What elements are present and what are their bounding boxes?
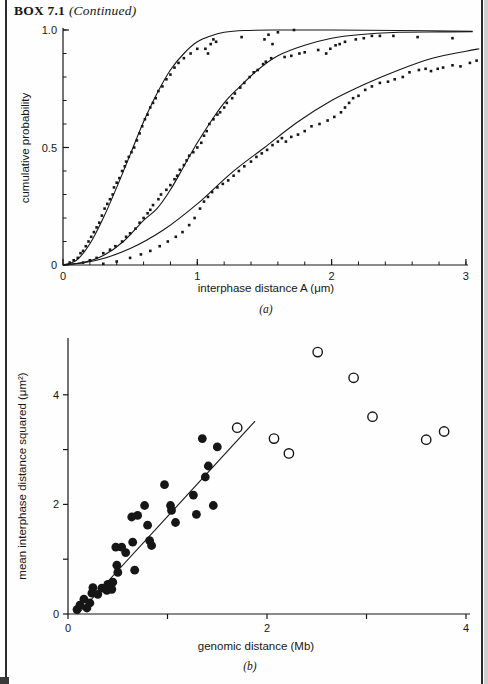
svg-text:0: 0 bbox=[51, 259, 57, 271]
svg-text:0: 0 bbox=[60, 270, 66, 282]
svg-text:4: 4 bbox=[463, 622, 469, 634]
chart-a-model-curves bbox=[63, 30, 479, 265]
model-curve-long-distance bbox=[63, 49, 479, 265]
figure-canvas: 012300.51.0 cumulative probability inter… bbox=[0, 0, 488, 684]
chart-b-data-points bbox=[73, 347, 449, 614]
chart-a-y-axis-title: cumulative probability bbox=[19, 92, 31, 203]
chart-b-panel-label: (b) bbox=[243, 660, 257, 673]
svg-text:2: 2 bbox=[53, 498, 59, 510]
book-page: BOX 7.1(Continued) 012300.51.0 cumulativ… bbox=[0, 0, 488, 684]
chart-b-x-axis-title: genomic distance (Mb) bbox=[198, 640, 314, 652]
filled-circles-short-range bbox=[73, 434, 222, 614]
chart-b-y-axis-title: mean interphase distance squared (μm²) bbox=[16, 372, 28, 580]
svg-text:1.0: 1.0 bbox=[42, 24, 57, 36]
svg-text:2: 2 bbox=[329, 270, 335, 282]
svg-text:0: 0 bbox=[53, 608, 59, 620]
measured-short-distance bbox=[68, 29, 295, 264]
chart-a-axes: 012300.51.0 bbox=[42, 24, 469, 282]
svg-text:3: 3 bbox=[463, 270, 469, 282]
svg-text:4: 4 bbox=[53, 389, 59, 401]
chart-a-data-dots bbox=[68, 29, 478, 265]
open-circles-long-range bbox=[233, 347, 449, 458]
svg-text:0: 0 bbox=[65, 622, 71, 634]
model-curve-medium-distance bbox=[63, 32, 473, 265]
chart-a-x-axis-title: interphase distance A (μm) bbox=[198, 282, 335, 294]
chart-a-panel-label: (a) bbox=[259, 303, 273, 316]
svg-text:1: 1 bbox=[194, 270, 200, 282]
svg-text:2: 2 bbox=[264, 622, 270, 634]
svg-text:0.5: 0.5 bbox=[42, 142, 57, 154]
